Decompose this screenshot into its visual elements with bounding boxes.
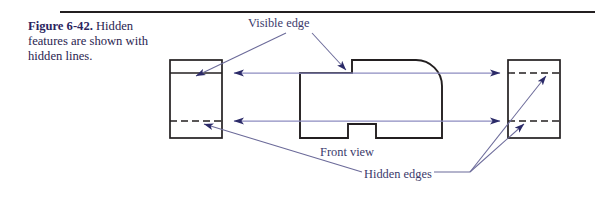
hidden-edges-leader-to-right-bottom bbox=[470, 124, 524, 172]
visible-edge-leader-left bbox=[196, 33, 286, 76]
side-view-right-outline bbox=[508, 60, 560, 138]
side-view-left bbox=[170, 60, 222, 138]
side-view-right bbox=[508, 60, 560, 138]
front-view-profile bbox=[300, 60, 442, 138]
label-visible-edge: Visible edge bbox=[248, 16, 310, 31]
visible-edge-leaders bbox=[196, 33, 346, 76]
figure-page: Figure 6-42. Hidden features are shown w… bbox=[0, 0, 598, 198]
label-hidden-edges: Hidden edges bbox=[364, 167, 432, 182]
visible-edge-leader-right bbox=[312, 33, 346, 70]
side-view-left-outline bbox=[170, 60, 222, 138]
front-view-outline bbox=[300, 60, 442, 138]
projection-lines bbox=[234, 73, 500, 121]
label-front-view: Front view bbox=[320, 145, 374, 160]
